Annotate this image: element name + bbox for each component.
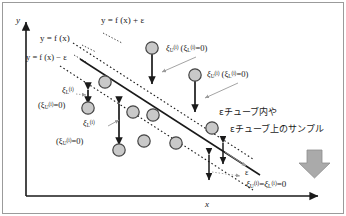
slack-label-lower-1: ξL(i) [62,86,74,95]
data-point-violating-upper [146,42,158,54]
y-axis-label: y [16,16,20,25]
data-point [206,122,218,134]
leader-lower-1 [76,94,86,95]
svr-epsilon-tube-figure: y x y = f (x) + ε y = f (x) y = f (x) − … [0,0,346,216]
center-line-label: y = f (x) [40,34,70,43]
upper-line-label: y = f (x) + ε [101,16,144,25]
epsilon-label: ε [245,169,248,177]
slack-label-lower-2: ξL(i) [83,119,95,128]
leader-lower-line-label [82,45,96,52]
data-point [127,106,139,118]
slack-label-upper-2: ξU(i) (ξL(i)=0) [207,70,248,79]
data-point [138,135,150,147]
data-point-violating-lower [113,144,125,156]
slack-label-lower-1-paren: (ξU(i)=0) [38,101,65,110]
upper-tube-line [73,43,253,159]
data-point [170,137,182,149]
data-point-violating-lower [82,102,94,114]
x-axis-label: x [205,200,209,209]
lower-line-label: y = f (x) − ε [26,53,67,62]
data-point [147,109,159,121]
leader-upper-2 [205,83,238,98]
data-point [99,76,111,88]
callout-result: ξU(i)=ξL(i)=0 [246,180,286,190]
data-point-violating-upper [189,69,201,81]
leader-upper-line-label [103,33,122,43]
down-arrow-icon [299,150,330,178]
callout-line-2: εチューブ上のサンプル [230,125,324,134]
callout-line-1: εチューブ内や [219,108,277,117]
slack-label-upper-1: ξU(i) (ξL(i)=0) [166,44,207,53]
epsilon-leader-1 [225,152,246,166]
leader-lower-2 [108,120,119,126]
slack-label-lower-2-paren: (ξU(i)=0) [56,137,83,146]
